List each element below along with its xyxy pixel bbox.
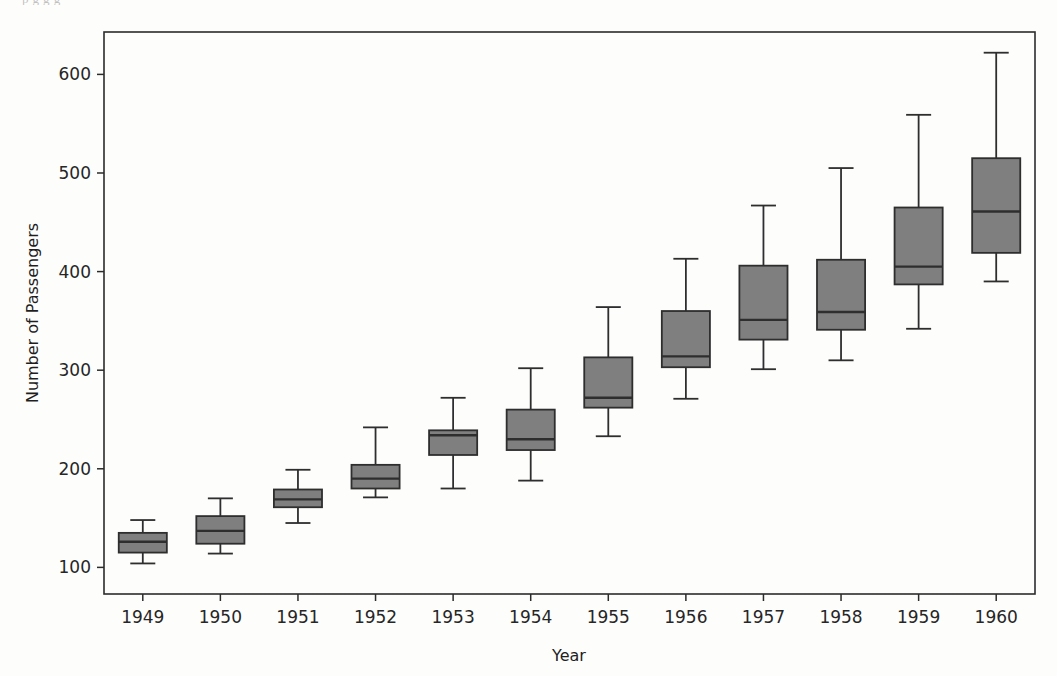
y-axis-ticks: 100200300400500600	[59, 64, 104, 577]
y-tick-label: 200	[59, 459, 91, 479]
figure-page: p g g g Number of Passengers Year 100200…	[0, 0, 1057, 676]
boxplot-box	[196, 498, 244, 553]
x-tick-label: 1955	[587, 607, 630, 627]
y-tick-label: 300	[59, 360, 91, 380]
y-tick-label: 600	[59, 64, 91, 84]
boxplot-svg: Number of Passengers Year 10020030040050…	[0, 0, 1057, 676]
box-body	[429, 430, 477, 455]
boxplot-box	[662, 259, 710, 399]
box-body	[584, 357, 632, 407]
y-tick-label: 400	[59, 262, 91, 282]
x-tick-label: 1958	[819, 607, 862, 627]
boxplot-box	[119, 520, 167, 563]
box-body	[817, 260, 865, 330]
x-tick-label: 1953	[431, 607, 474, 627]
plot-frame	[104, 32, 1035, 594]
x-tick-label: 1950	[199, 607, 242, 627]
boxplot-box	[507, 368, 555, 480]
box-body	[662, 311, 710, 367]
x-axis-ticks: 1949195019511952195319541955195619571958…	[121, 594, 1018, 627]
x-tick-label: 1954	[509, 607, 552, 627]
x-tick-label: 1952	[354, 607, 397, 627]
x-tick-label: 1951	[276, 607, 319, 627]
x-tick-label: 1956	[664, 607, 707, 627]
y-tick-label: 100	[59, 557, 91, 577]
boxplot-box	[817, 168, 865, 360]
x-tick-label: 1960	[975, 607, 1018, 627]
box-body	[739, 266, 787, 340]
x-axis-title: Year	[551, 646, 586, 665]
boxplot-box	[351, 427, 399, 497]
box-body	[895, 208, 943, 285]
x-tick-label: 1949	[121, 607, 164, 627]
box-body	[507, 410, 555, 450]
y-axis-title: Number of Passengers	[23, 223, 42, 403]
box-series	[119, 53, 1021, 564]
boxplot-figure: Number of Passengers Year 10020030040050…	[0, 0, 1057, 676]
x-tick-label: 1957	[742, 607, 785, 627]
boxplot-box	[584, 307, 632, 436]
boxplot-box	[972, 53, 1020, 282]
boxplot-box	[739, 206, 787, 370]
boxplot-box	[895, 115, 943, 329]
boxplot-box	[274, 470, 322, 523]
box-body	[351, 465, 399, 489]
box-body	[972, 158, 1020, 253]
x-tick-label: 1959	[897, 607, 940, 627]
boxplot-box	[429, 398, 477, 489]
y-tick-label: 500	[59, 163, 91, 183]
